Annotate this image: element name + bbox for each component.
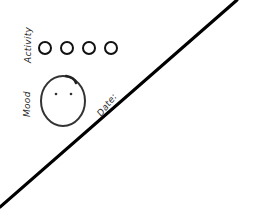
activity-option-circle-3[interactable]: [82, 41, 96, 55]
sketch-canvas: Activity Mood Date:: [0, 0, 257, 218]
activity-option-circle-4[interactable]: [104, 41, 118, 55]
mood-face-icon[interactable]: [41, 76, 85, 126]
activity-option-circle-2[interactable]: [60, 41, 74, 55]
diagonal-divider-line: [0, 0, 237, 207]
left-eye-dot: [55, 93, 58, 96]
sketch-drawing: [0, 0, 257, 218]
activity-options: [38, 41, 118, 55]
right-eye-dot: [70, 93, 73, 96]
mood-label: Mood: [22, 91, 32, 117]
activity-label: Activity: [23, 27, 33, 63]
activity-option-circle-1[interactable]: [38, 41, 52, 55]
